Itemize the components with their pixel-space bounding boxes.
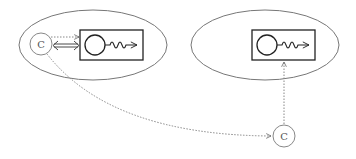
right-process-circle <box>257 35 277 55</box>
left-process-circle <box>85 35 105 55</box>
remote-component-label: C <box>280 131 288 142</box>
right-process-box <box>252 30 315 60</box>
left-component-label: C <box>37 39 45 50</box>
diagram-canvas: C C <box>0 0 356 159</box>
left-process-box <box>80 30 143 60</box>
bidirectional-double-arrow <box>53 41 79 50</box>
remote-component-node: C <box>273 125 295 147</box>
left-component-node: C <box>30 33 52 55</box>
dotted-curve-left-c-to-remote-c <box>47 54 271 136</box>
